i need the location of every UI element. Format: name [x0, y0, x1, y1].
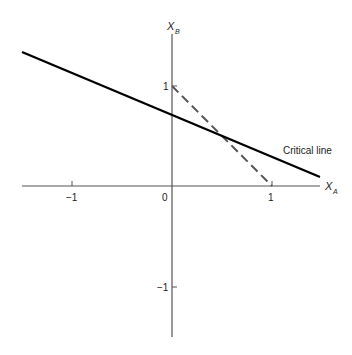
- tick-label-y-neg1: −1: [157, 282, 169, 293]
- tick-label-x-neg1: −1: [66, 192, 78, 203]
- tick-label-x-1: 1: [268, 192, 274, 203]
- critical-line-label: Critical line: [283, 145, 332, 156]
- y-axis-label-sub: B: [175, 28, 180, 35]
- critical-line: [22, 52, 320, 177]
- x-axis-label-sub: A: [332, 188, 338, 195]
- y-axis-label: X: [166, 20, 175, 32]
- chart: −1 0 1 1 −1 X B X A Critical line: [0, 0, 352, 355]
- tick-label-x-0: 0: [162, 192, 168, 203]
- x-axis-label: X: [324, 180, 333, 192]
- tick-label-y-1: 1: [163, 81, 169, 92]
